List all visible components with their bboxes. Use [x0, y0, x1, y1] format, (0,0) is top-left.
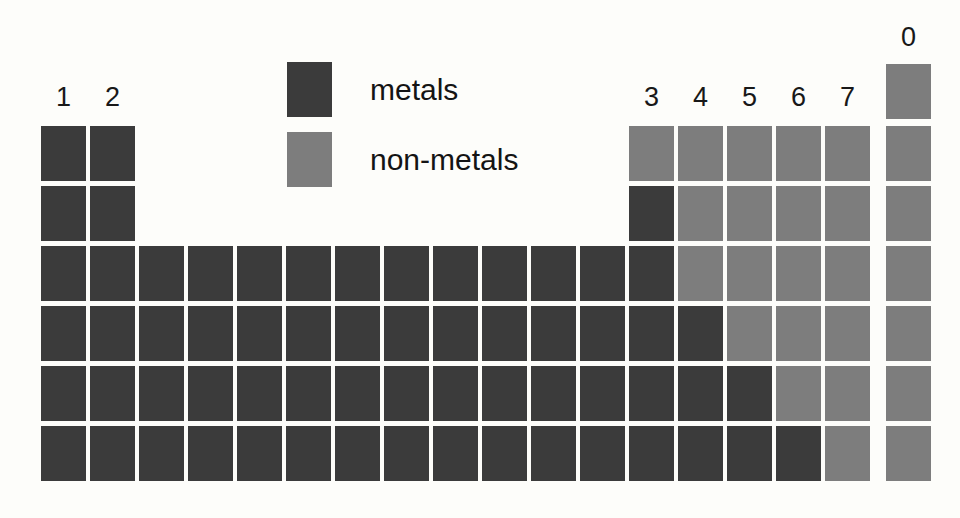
- cell-period-5-col-3: [139, 306, 184, 361]
- cell-period-7-col-13: [629, 426, 674, 481]
- cell-period-7-col-18: [886, 426, 931, 481]
- cell-period-6-col-10: [482, 366, 527, 421]
- cell-period-7-col-12: [580, 426, 625, 481]
- cell-period-5-col-6: [286, 306, 331, 361]
- cell-period-6-col-18: [886, 366, 931, 421]
- cell-period-7-col-1: [41, 426, 86, 481]
- cell-period-2-col-17: [825, 126, 870, 181]
- cell-period-4-col-18: [886, 246, 931, 301]
- group-label-6: 6: [776, 82, 821, 112]
- cell-period-4-col-9: [433, 246, 478, 301]
- cell-period-3-col-15: [727, 186, 772, 241]
- cell-period-6-col-2: [90, 366, 135, 421]
- cell-period-4-col-7: [335, 246, 380, 301]
- cell-period-5-col-13: [629, 306, 674, 361]
- cell-period-4-col-5: [237, 246, 282, 301]
- cell-period-2-col-14: [678, 126, 723, 181]
- cell-period-7-col-3: [139, 426, 184, 481]
- cell-period-5-col-14: [678, 306, 723, 361]
- cell-period-7-col-6: [286, 426, 331, 481]
- cell-period-7-col-9: [433, 426, 478, 481]
- cell-period-6-col-14: [678, 366, 723, 421]
- cell-period-6-col-3: [139, 366, 184, 421]
- cell-period-4-col-14: [678, 246, 723, 301]
- cell-period-3-col-17: [825, 186, 870, 241]
- cell-period-6-col-17: [825, 366, 870, 421]
- cell-period-7-col-15: [727, 426, 772, 481]
- cell-period-5-col-1: [41, 306, 86, 361]
- cell-period-4-col-8: [384, 246, 429, 301]
- cell-period-1-group-18: [886, 64, 931, 119]
- cell-period-4-col-4: [188, 246, 233, 301]
- cell-period-5-col-17: [825, 306, 870, 361]
- cell-period-7-col-17: [825, 426, 870, 481]
- group-label-7: 7: [825, 82, 870, 112]
- cell-period-6-col-6: [286, 366, 331, 421]
- cell-period-4-col-10: [482, 246, 527, 301]
- cell-period-5-col-2: [90, 306, 135, 361]
- cell-period-2-col-16: [776, 126, 821, 181]
- cell-period-7-col-8: [384, 426, 429, 481]
- cell-period-6-col-11: [531, 366, 576, 421]
- legend-label-metals: metals: [370, 73, 458, 107]
- cell-period-5-col-16: [776, 306, 821, 361]
- cell-period-6-col-7: [335, 366, 380, 421]
- cell-period-5-col-15: [727, 306, 772, 361]
- group-label-4: 4: [678, 82, 723, 112]
- cell-period-4-col-13: [629, 246, 674, 301]
- cell-period-7-col-7: [335, 426, 380, 481]
- cell-period-7-col-10: [482, 426, 527, 481]
- cell-period-5-col-5: [237, 306, 282, 361]
- cell-period-6-col-12: [580, 366, 625, 421]
- cell-period-7-col-5: [237, 426, 282, 481]
- cell-period-6-col-4: [188, 366, 233, 421]
- cell-period-6-col-8: [384, 366, 429, 421]
- cell-period-6-col-1: [41, 366, 86, 421]
- cell-period-5-col-12: [580, 306, 625, 361]
- cell-period-5-col-8: [384, 306, 429, 361]
- cell-period-3-col-18: [886, 186, 931, 241]
- cell-period-6-col-13: [629, 366, 674, 421]
- group-label-0: 0: [886, 22, 931, 52]
- cell-period-7-col-11: [531, 426, 576, 481]
- cell-period-5-col-4: [188, 306, 233, 361]
- cell-period-4-col-6: [286, 246, 331, 301]
- cell-period-7-col-2: [90, 426, 135, 481]
- cell-period-5-col-11: [531, 306, 576, 361]
- cell-period-4-col-16: [776, 246, 821, 301]
- group-label-1: 1: [41, 82, 86, 112]
- cell-period-6-col-9: [433, 366, 478, 421]
- periodic-table-diagram: 12345670 metalsnon-metals: [0, 0, 960, 518]
- cell-period-4-col-2: [90, 246, 135, 301]
- legend-item-nonmetals: non-metals: [287, 132, 518, 187]
- cell-period-4-col-12: [580, 246, 625, 301]
- legend-label-nonmetals: non-metals: [370, 143, 518, 177]
- group-label-3: 3: [629, 82, 674, 112]
- cell-period-3-col-2: [90, 186, 135, 241]
- cell-period-6-col-16: [776, 366, 821, 421]
- cell-period-7-col-14: [678, 426, 723, 481]
- cell-period-2-col-15: [727, 126, 772, 181]
- cell-period-5-col-7: [335, 306, 380, 361]
- cell-period-4-col-1: [41, 246, 86, 301]
- cell-period-2-col-18: [886, 126, 931, 181]
- cell-period-5-col-10: [482, 306, 527, 361]
- cell-period-4-col-11: [531, 246, 576, 301]
- cell-period-2-col-13: [629, 126, 674, 181]
- cell-period-2-col-1: [41, 126, 86, 181]
- cell-period-3-col-14: [678, 186, 723, 241]
- cell-period-4-col-3: [139, 246, 184, 301]
- cell-period-5-col-18: [886, 306, 931, 361]
- cell-period-5-col-9: [433, 306, 478, 361]
- cell-period-6-col-5: [237, 366, 282, 421]
- cell-period-7-col-16: [776, 426, 821, 481]
- cell-period-3-col-1: [41, 186, 86, 241]
- group-label-2: 2: [90, 82, 135, 112]
- cell-period-3-col-16: [776, 186, 821, 241]
- cell-period-7-col-4: [188, 426, 233, 481]
- cell-period-3-col-13: [629, 186, 674, 241]
- cell-period-4-col-17: [825, 246, 870, 301]
- legend-item-metals: metals: [287, 62, 458, 117]
- cell-period-4-col-15: [727, 246, 772, 301]
- cell-period-6-col-15: [727, 366, 772, 421]
